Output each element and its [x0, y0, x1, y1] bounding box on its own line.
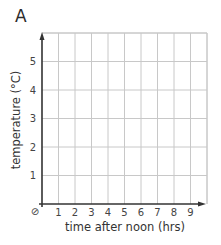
x-tick-label: 6	[138, 207, 144, 218]
y-tick-label: 4	[30, 85, 36, 96]
x-tick-label: 1	[55, 207, 61, 218]
x-tick-label: 8	[171, 207, 177, 218]
blank-coordinate-grid: 123456789 12345 ⊘ time after noon (hrs) …	[0, 0, 221, 245]
y-tick-label: 2	[30, 142, 36, 153]
x-axis-label: time after noon (hrs)	[65, 220, 185, 234]
x-tick-label: 3	[88, 207, 94, 218]
x-tick-label: 4	[105, 207, 111, 218]
x-tick-label: 9	[187, 207, 193, 218]
x-tick-label: 7	[154, 207, 160, 218]
axes	[39, 32, 206, 207]
y-tick-label: 5	[30, 56, 36, 67]
grid-lines	[42, 33, 207, 204]
x-tick-labels: 123456789	[55, 207, 193, 218]
y-axis-label: temperature (°C)	[9, 71, 23, 170]
x-tick-label: 2	[72, 207, 78, 218]
y-tick-label: 3	[30, 113, 36, 124]
y-tick-labels: 12345	[30, 56, 36, 181]
y-tick-label: 1	[30, 170, 36, 181]
origin-label: ⊘	[31, 206, 39, 217]
x-tick-label: 5	[121, 207, 127, 218]
x-axis-arrow-icon	[198, 202, 206, 207]
